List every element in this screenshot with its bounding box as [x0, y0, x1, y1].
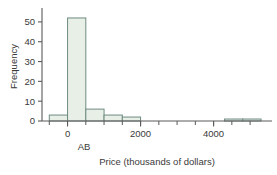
y-axis-ticks: 01020304050 — [24, 16, 42, 126]
bars-group — [49, 18, 261, 121]
y-tick-label: 50 — [24, 16, 35, 27]
y-tick-label: 20 — [24, 76, 35, 87]
chart-annotations: AB — [78, 141, 91, 152]
x-axis-title: Price (thousands of dollars) — [99, 156, 215, 167]
y-tick-label: 10 — [24, 96, 35, 107]
x-tick-label: 0 — [65, 128, 70, 139]
ab-annotation: AB — [78, 141, 91, 152]
histogram-bar — [49, 115, 67, 121]
histogram-bar — [68, 18, 86, 121]
histogram-bar — [104, 115, 122, 121]
y-tick-label: 30 — [24, 56, 35, 67]
histogram-bar — [86, 109, 104, 121]
y-axis-title: Frequency — [8, 44, 19, 89]
x-tick-label: 4000 — [203, 128, 224, 139]
x-axis-ticks: 020004000 — [49, 121, 250, 139]
histogram-bar — [122, 117, 140, 121]
histogram-figure: 01020304050 020004000 AB Frequency Price… — [0, 0, 277, 175]
y-tick-label: 0 — [30, 115, 35, 126]
x-tick-label: 2000 — [130, 128, 151, 139]
histogram-chart: 01020304050 020004000 AB Frequency Price… — [0, 0, 277, 175]
y-tick-label: 40 — [24, 36, 35, 47]
